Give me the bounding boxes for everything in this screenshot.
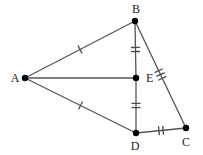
segment-DC [136,128,186,133]
vertex-point-E [133,75,139,81]
vertex-label-E: E [146,71,153,85]
segment-layer [25,21,186,133]
diagram-canvas: ABCDE [0,0,203,155]
vertex-label-D: D [131,139,140,153]
tick-mark [78,46,82,54]
vertex-point-D [133,130,139,136]
tick-mark [158,126,159,135]
vertex-label-A: A [11,71,20,85]
segment-BE [135,21,136,78]
vertex-label-C: C [182,135,190,149]
tick-mark [163,126,164,135]
vertex-label-B: B [132,2,140,16]
vertex-point-C [183,125,189,131]
geometry-figure: ABCDE [0,0,203,155]
vertex-point-B [132,18,138,24]
vertex-point-A [22,75,28,81]
tick-group-BC [155,69,167,80]
tick-group-AB [78,46,82,54]
